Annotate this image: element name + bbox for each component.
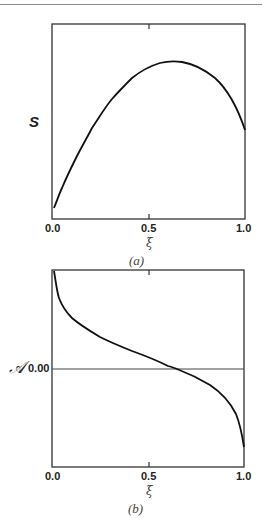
panel-b-plot	[52, 270, 244, 467]
panel-b-xtick-0: 0.0	[45, 470, 60, 482]
panel-b-zero-tick-label: 0.00	[28, 362, 49, 374]
panel-a-ylabel: S	[29, 113, 39, 130]
panel-a-caption: (a)	[129, 253, 144, 269]
panel-b-caption: (b)	[128, 501, 143, 517]
panel-a-curve	[54, 61, 245, 208]
panel-a-frame	[52, 24, 245, 219]
panel-b-ylabel: 𝒜	[9, 357, 25, 377]
panel-b-xtick-2: 1.0	[236, 470, 251, 482]
panel-a-xtick-0: 0.0	[45, 222, 60, 234]
panel-b-curve	[54, 271, 244, 447]
panel-a-xlabel: ξ	[146, 236, 153, 250]
panel-a-xtick-1: 0.5	[141, 222, 156, 234]
panel-a-plot	[52, 24, 245, 219]
panel-b-xtick-1: 0.5	[141, 470, 156, 482]
panel-a-xtick-2: 1.0	[236, 222, 251, 234]
panel-b-xlabel: ξ	[146, 484, 153, 498]
